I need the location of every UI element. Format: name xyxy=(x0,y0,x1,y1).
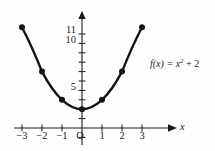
x-tick-label--3: −3 xyxy=(14,131,30,142)
x-tick-label--2: −2 xyxy=(34,131,50,142)
x-tick-label-1: 1 xyxy=(97,131,107,142)
y-tick-label-5: 5 xyxy=(56,82,76,93)
graph-figure: −3 −2 −1 1 2 3 O 11 10 5 x f(x) = x2 + 2 xyxy=(0,0,215,151)
curve-equation-fn: f(x) xyxy=(150,58,164,69)
data-point xyxy=(99,97,105,103)
origin-label: O xyxy=(74,131,86,142)
data-point xyxy=(139,24,145,30)
data-point xyxy=(39,69,45,75)
data-point xyxy=(79,106,85,112)
x-axis-arrowhead xyxy=(168,124,177,131)
y-axis-arrowhead xyxy=(78,11,85,19)
curve-equation-eq: = x xyxy=(164,58,180,69)
x-axis-label: x xyxy=(180,122,185,133)
y-tick-label-10: 10 xyxy=(56,35,76,46)
x-tick-label-3: 3 xyxy=(137,131,147,142)
curve-equation-tail: + 2 xyxy=(184,58,200,69)
data-point xyxy=(119,69,125,75)
x-tick-label-2: 2 xyxy=(117,131,127,142)
curve-equation-label: f(x) = x2 + 2 xyxy=(150,59,199,69)
data-point xyxy=(19,24,25,30)
x-tick-label--1: −1 xyxy=(54,131,70,142)
data-point xyxy=(59,97,65,103)
